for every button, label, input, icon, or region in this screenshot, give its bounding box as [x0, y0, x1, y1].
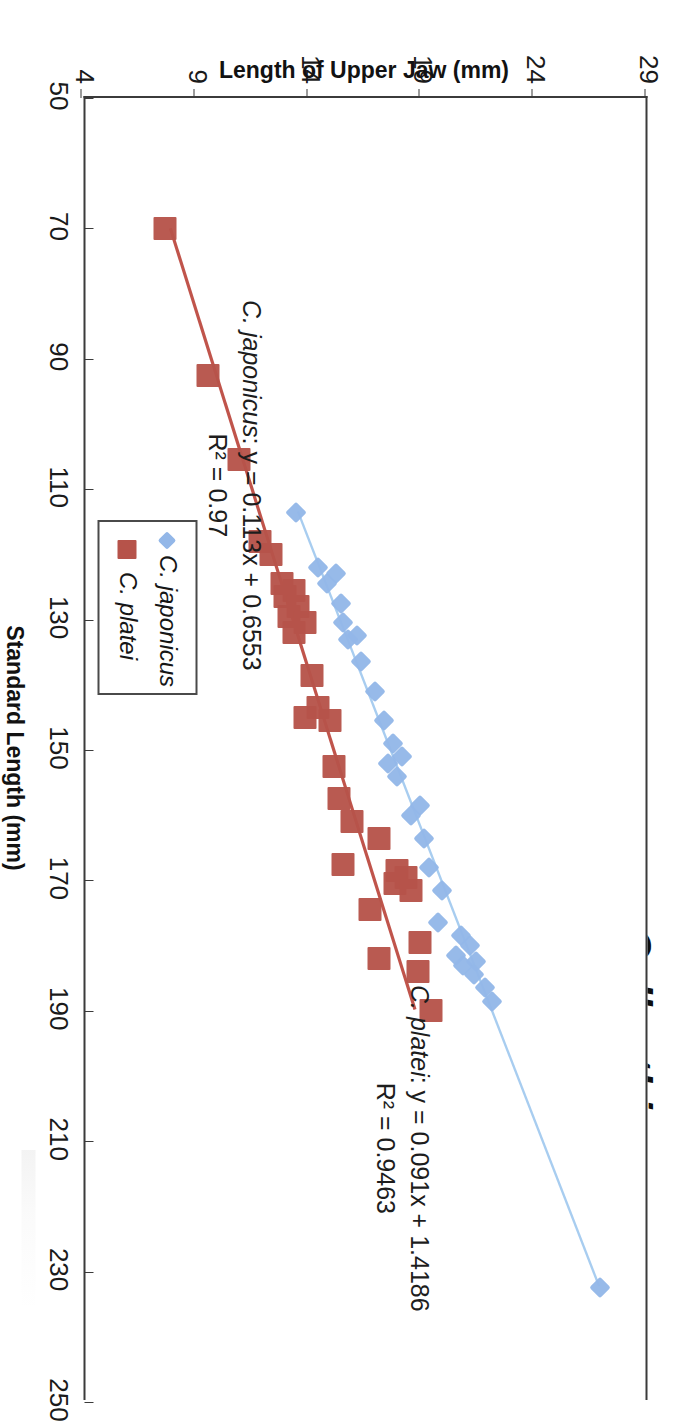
scan-artifact [21, 1150, 35, 1310]
annotation-platei-species: C. platei [405, 985, 433, 1077]
annotation-japonicus-equation: : y = 0.113x + 0.6553 [237, 438, 265, 671]
x-tick [84, 98, 93, 99]
annotation-platei-r2: R² = 0.9463 [368, 985, 402, 1312]
data-point-platei [153, 217, 176, 240]
x-tick [84, 489, 93, 490]
square-marker-icon [118, 534, 137, 564]
x-tick-label: 170 [42, 848, 73, 908]
chart-legend: C. japonicus C. platei [97, 520, 197, 695]
legend-label-platei: C. platei [113, 572, 141, 660]
x-tick-label: 90 [42, 327, 73, 387]
data-point-platei [408, 931, 431, 954]
annotation-platei-fit: C. platei: y = 0.091x + 1.4186 R² = 0.94… [368, 985, 436, 1312]
x-tick-label: 150 [42, 718, 73, 778]
x-tick-label: 250 [42, 1370, 73, 1424]
y-tick [80, 89, 81, 98]
y-tick [644, 89, 645, 98]
x-tick [84, 359, 93, 360]
data-point-platei [327, 787, 350, 810]
x-tick-label: 190 [42, 979, 73, 1039]
data-point-platei [318, 709, 341, 732]
annotation-japonicus-fit: C. japonicus: y = 0.113x + 0.6553 R² = 0… [200, 300, 268, 671]
y-axis-title: Length of Upper Jaw (mm) [218, 57, 508, 83]
data-point-platei [367, 827, 390, 850]
annotation-japonicus-r2: R² = 0.97 [200, 300, 234, 671]
x-tick [84, 228, 93, 229]
chart-figure: Callanthias 5070901101301501701902102302… [0, 0, 675, 1424]
x-tick [84, 1141, 93, 1142]
data-point-platei [282, 621, 305, 644]
data-point-platei [399, 879, 422, 902]
annotation-japonicus-species: C. japonicus [237, 300, 265, 438]
data-point-platei [322, 755, 345, 778]
legend-label-japonicus: C. japonicus [153, 555, 181, 687]
data-point-platei [340, 810, 363, 833]
y-tick [531, 89, 532, 98]
y-tick [306, 89, 307, 98]
x-tick [84, 1011, 93, 1012]
x-tick-label: 70 [42, 196, 73, 256]
data-point-platei [300, 664, 323, 687]
legend-item-platei[interactable]: C. platei [107, 534, 147, 681]
x-tick [84, 1272, 93, 1273]
diamond-marker-icon [161, 534, 174, 547]
figure-page: Callanthias 5070901101301501701902102302… [0, 0, 675, 1424]
x-tick-label: 230 [42, 1240, 73, 1300]
trendline-layer [85, 98, 645, 1400]
x-tick-label: 210 [42, 1109, 73, 1169]
x-tick [84, 620, 93, 621]
data-point-platei [331, 853, 354, 876]
data-point-platei [293, 706, 316, 729]
legend-item-japonicus[interactable]: C. japonicus [147, 534, 187, 681]
annotation-platei-equation: : y = 0.091x + 1.4186 [405, 1077, 433, 1312]
plot-area [83, 96, 647, 1400]
x-tick [84, 1402, 93, 1403]
data-point-platei [367, 947, 390, 970]
y-tick [418, 89, 419, 98]
data-point-platei [358, 898, 381, 921]
x-tick-label: 130 [42, 588, 73, 648]
rotated-figure-container: Callanthias 5070901101301501701902102302… [0, 0, 675, 1424]
y-axis-title-wrapper: Length of Upper Jaw (mm) [82, 57, 646, 84]
x-tick-label: 110 [42, 457, 73, 517]
data-point-platei [406, 960, 429, 983]
y-tick [193, 89, 194, 98]
x-tick [84, 880, 93, 881]
plot-inner [85, 98, 645, 1400]
x-tick [84, 750, 93, 751]
